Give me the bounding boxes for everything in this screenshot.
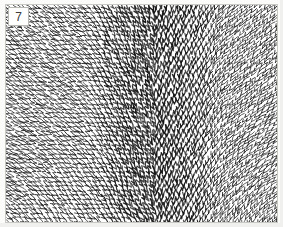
orientation-field-texture — [6, 5, 277, 222]
plate-edge-shade-right — [280, 0, 283, 227]
panel-index-text: 7 — [15, 11, 22, 23]
plate-edge-shade-bottom — [0, 223, 283, 227]
panel-index-label: 7 — [8, 7, 29, 26]
texture-plate — [5, 4, 278, 223]
figure-panel: 7 — [0, 0, 283, 227]
